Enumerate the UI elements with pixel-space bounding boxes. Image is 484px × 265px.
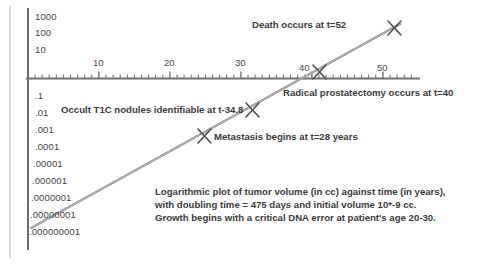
caption-line-2: with doubling time = 475 days and initia… — [155, 198, 446, 211]
tumor-growth-log-plot-figure: 1000 100 10 .1 .01 .001 .0001 .00001 .00… — [0, 0, 484, 265]
caption-line-3: Growth begins with a critical DNA error … — [155, 211, 446, 224]
caption-line-1: Logarithmic plot of tumor volume (in cc)… — [155, 185, 446, 198]
annotation-metastasis: Metastasis begins at t=28 years — [214, 131, 358, 143]
chart-annotations: Death occurs at t=52 Radical prostatecto… — [0, 0, 484, 265]
annotation-occult-nodules: Occult T1C nodules identifiable at t-34.… — [61, 104, 243, 116]
annotation-radical-prostatectomy: Radical prostatectomy occurs at t=40 — [283, 87, 453, 99]
figure-caption: Logarithmic plot of tumor volume (in cc)… — [155, 185, 446, 225]
annotation-death: Death occurs at t=52 — [252, 19, 346, 31]
